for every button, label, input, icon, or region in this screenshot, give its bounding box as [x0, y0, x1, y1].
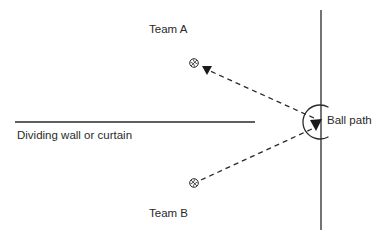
ball-path-label: Ball path: [327, 115, 372, 127]
basketball-icon: [190, 179, 199, 188]
team-a-label: Team A: [149, 24, 187, 36]
dividing-wall-label: Dividing wall or curtain: [17, 130, 132, 142]
team-b-label: Team B: [149, 208, 188, 220]
ball-path-from-team-b: [201, 128, 314, 180]
arrowhead-icon: [202, 66, 212, 75]
basketball-icon: [190, 59, 199, 68]
ball-path-to-team-a: [210, 71, 314, 118]
